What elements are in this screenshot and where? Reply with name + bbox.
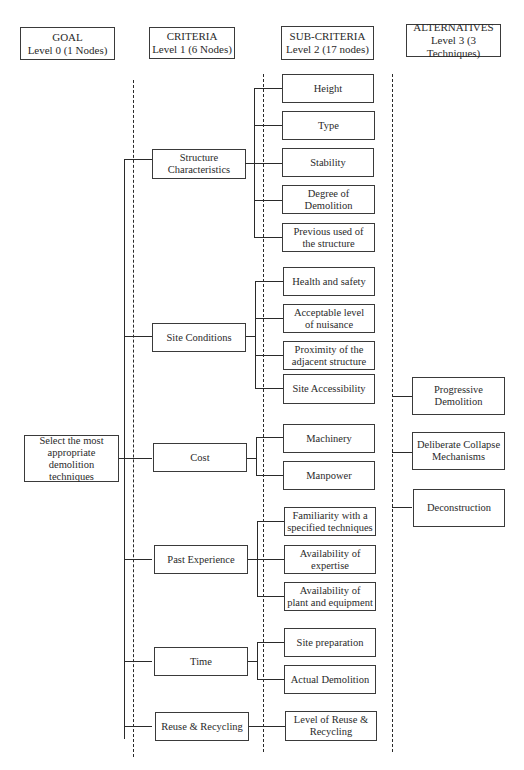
subcriteria-node-availability-plant: Availability of plant and equipment xyxy=(284,582,376,611)
alternative-label: Progressive xyxy=(434,384,483,396)
level-separator-3 xyxy=(392,74,393,752)
subcriteria-label: Availability of xyxy=(300,548,361,560)
subcriteria-node-health-safety: Health and safety xyxy=(283,267,375,296)
criteria-connector xyxy=(124,661,152,662)
sub-connector xyxy=(254,200,282,201)
header-criteria-title: CRITERIA xyxy=(167,30,218,43)
subcriteria-label: Proximity of the xyxy=(295,344,364,356)
subcriteria-node-type: Type xyxy=(282,111,375,140)
subcriteria-node-degree-of-demolition: Degree of Demolition xyxy=(282,185,375,214)
subcriteria-node-proximity: Proximity of the adjacent structure xyxy=(283,341,375,370)
sub-connector xyxy=(254,88,282,89)
alternative-node-progressive-demolition: Progressive Demolition xyxy=(412,377,505,415)
header-alternatives-title: ALTERNATIVES xyxy=(413,21,493,34)
criteria-label: Time xyxy=(190,656,212,668)
subcriteria-label: Degree of Demolition xyxy=(285,188,372,212)
sub-connector xyxy=(256,475,283,476)
alternative-label: Mechanisms xyxy=(432,451,485,463)
criteria-label: Reuse & Recycling xyxy=(161,721,243,733)
alternative-connector xyxy=(392,507,412,508)
criteria-connector xyxy=(124,458,152,459)
subcriteria-node-site-preparation: Site preparation xyxy=(284,628,376,657)
goal-text-line: appropriate xyxy=(48,447,96,459)
subcriteria-node-previous-use: Previous used of the structure xyxy=(282,223,375,252)
subcriteria-label: Height xyxy=(314,83,343,95)
alternative-label: Demolition xyxy=(435,396,483,408)
sub-connector xyxy=(255,355,283,356)
sub-connector xyxy=(257,596,284,597)
subcriteria-node-stability: Stability xyxy=(282,148,374,177)
subcriteria-label: Familiarity with a xyxy=(292,510,367,522)
subcriteria-node-availability-expertise: Availability of expertise xyxy=(284,545,376,574)
subcriteria-label: expertise xyxy=(311,560,349,572)
header-goal: GOAL Level 0 (1 Nodes) xyxy=(20,27,115,60)
sub-connector xyxy=(254,163,282,164)
header-criteria-subtitle: Level 1 (6 Nodes) xyxy=(152,43,232,56)
sub-connector xyxy=(257,679,284,680)
sub-connector xyxy=(254,125,282,126)
alternative-node-deliberate-collapse: Deliberate Collapse Mechanisms xyxy=(412,432,505,470)
subcriteria-node-familiarity: Familiarity with a specified techniques xyxy=(284,507,376,536)
subcriteria-label: specified techniques xyxy=(287,522,372,534)
subcriteria-node-machinery: Machinery xyxy=(283,424,375,453)
goal-text-line: Select the most xyxy=(39,435,103,447)
sub-trunk xyxy=(256,437,257,475)
sub-connector xyxy=(255,318,283,319)
criteria-node-cost: Cost xyxy=(153,443,247,472)
subcriteria-label: Level of Reuse & xyxy=(294,714,368,726)
header-subcriteria-title: SUB-CRITERIA xyxy=(290,30,366,43)
alternative-label: Deliberate Collapse xyxy=(417,439,500,451)
header-goal-subtitle: Level 0 (1 Nodes) xyxy=(28,44,108,57)
subcriteria-node-manpower: Manpower xyxy=(283,461,375,490)
criteria-label: Structure xyxy=(180,152,219,164)
level-separator-1 xyxy=(133,80,134,757)
criteria-connector xyxy=(124,336,152,337)
header-subcriteria: SUB-CRITERIA Level 2 (17 nodes) xyxy=(281,26,374,60)
subcriteria-node-site-accessibility: Site Accessibility xyxy=(283,374,375,404)
criteria-trunk xyxy=(124,159,125,739)
sub-connector xyxy=(246,336,255,337)
criteria-node-structure-characteristics: Structure Characteristics xyxy=(152,149,246,179)
subcriteria-label: Site preparation xyxy=(297,637,364,649)
goal-text-line: demolition techniques xyxy=(27,459,116,483)
subcriteria-label: Actual Demolition xyxy=(291,674,369,686)
sub-connector xyxy=(256,437,283,438)
alternative-connector xyxy=(392,396,412,397)
alternative-connector xyxy=(392,452,412,453)
level-separator-2 xyxy=(263,74,264,752)
subcriteria-label: Health and safety xyxy=(292,276,365,288)
header-criteria: CRITERIA Level 1 (6 Nodes) xyxy=(149,27,235,59)
subcriteria-label: Type xyxy=(318,120,339,132)
subcriteria-label: plant and equipment xyxy=(287,597,373,609)
sub-connector xyxy=(249,726,285,727)
subcriteria-label: Stability xyxy=(310,157,346,169)
sub-connector xyxy=(254,237,282,238)
criteria-label: Cost xyxy=(190,452,209,464)
sub-connector xyxy=(255,388,283,389)
sub-trunk xyxy=(257,642,258,679)
criteria-node-past-experience: Past Experience xyxy=(154,545,248,574)
alternative-node-deconstruction: Deconstruction xyxy=(413,489,505,527)
header-goal-title: GOAL xyxy=(52,31,83,44)
alternative-label: Deconstruction xyxy=(427,502,491,514)
subcriteria-label: Recycling xyxy=(310,726,353,738)
header-subcriteria-subtitle: Level 2 (17 nodes) xyxy=(286,43,369,56)
subcriteria-node-nuisance: Acceptable level of nuisance xyxy=(283,304,375,333)
header-alternatives-subtitle: Level 3 (3 Techniques) xyxy=(409,34,498,60)
criteria-node-site-conditions: Site Conditions xyxy=(152,323,246,352)
goal-node: Select the most appropriate demolition t… xyxy=(24,435,119,482)
sub-trunk xyxy=(255,281,256,388)
sub-connector xyxy=(255,281,283,282)
subcriteria-label: the structure xyxy=(302,238,354,250)
subcriteria-node-level-reuse: Level of Reuse & Recycling xyxy=(285,711,377,741)
subcriteria-label: Site Accessibility xyxy=(292,383,365,395)
header-alternatives: ALTERNATIVES Level 3 (3 Techniques) xyxy=(406,24,501,57)
criteria-connector xyxy=(124,726,152,727)
sub-connector xyxy=(257,521,284,522)
sub-connector xyxy=(257,642,284,643)
criteria-label: Site Conditions xyxy=(166,332,231,344)
subcriteria-label: Availability of xyxy=(300,585,361,597)
criteria-label: Characteristics xyxy=(168,164,230,176)
sub-connector xyxy=(248,559,284,560)
sub-trunk xyxy=(257,521,258,596)
